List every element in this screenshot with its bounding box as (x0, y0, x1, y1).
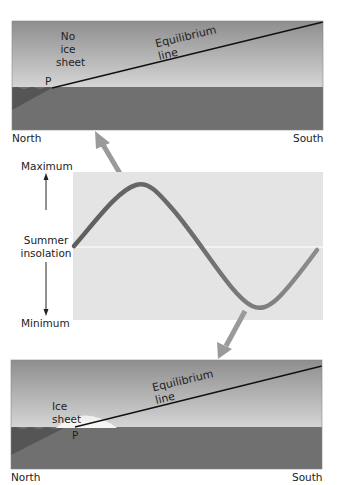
bottom-north-label: North (11, 471, 40, 484)
plot-background (73, 172, 323, 320)
ice-sheet-label: Ice sheet (52, 400, 81, 426)
middle-panel-graphics (44, 172, 324, 320)
state-line-2: ice (56, 43, 80, 56)
top-south-label: South (293, 132, 324, 145)
axis-min-label: Minimum (21, 317, 70, 330)
no-ice-sheet-label: No ice sheet (56, 30, 80, 69)
axis-title-line-2: insolation (20, 247, 72, 260)
bottom-south-label: South (292, 471, 323, 484)
state-line-1: No (56, 30, 80, 43)
state-line-3: sheet (56, 56, 80, 69)
top-ground (12, 87, 323, 130)
bottom-point-p-label: P (72, 429, 78, 442)
top-point-p-label: P (45, 75, 51, 88)
top-north-label: North (12, 132, 41, 145)
bottom-ground (11, 427, 322, 469)
axis-title-line-1: Summer (20, 234, 72, 247)
axis-title: Summer insolation (20, 234, 72, 260)
axis-max-label: Maximum (21, 160, 73, 173)
